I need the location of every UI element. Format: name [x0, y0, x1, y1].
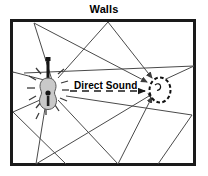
ear-outline	[150, 78, 171, 103]
direct-sound-label: Direct Sound	[74, 80, 137, 91]
ear-listener	[150, 78, 171, 103]
guitar-sound-hole	[45, 90, 50, 95]
guitar-strings	[47, 96, 50, 106]
guitar-headstock	[46, 57, 51, 61]
acoustics-diagram: Walls	[0, 0, 208, 176]
